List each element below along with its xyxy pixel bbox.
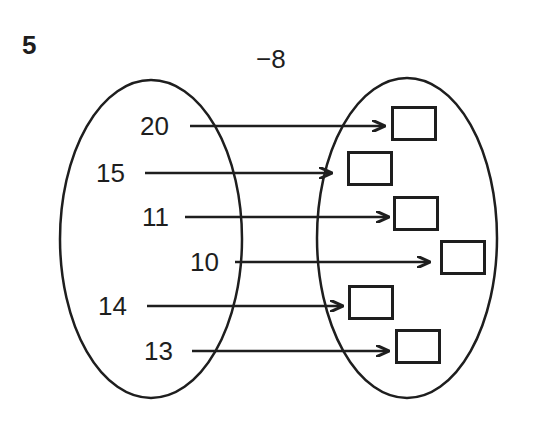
input-value: 11 — [142, 204, 169, 230]
input-value: 20 — [140, 113, 169, 139]
answer-box[interactable] — [440, 240, 486, 275]
input-value: 15 — [96, 160, 125, 186]
answer-box[interactable] — [393, 196, 439, 231]
mapping-diagram-drawing — [0, 0, 533, 424]
answer-box[interactable] — [395, 329, 441, 364]
answer-box[interactable] — [391, 106, 437, 141]
answer-box[interactable] — [348, 285, 394, 320]
input-value: 13 — [144, 338, 173, 364]
input-value: 14 — [98, 293, 127, 319]
input-value: 10 — [190, 249, 219, 275]
answer-box[interactable] — [347, 151, 393, 186]
